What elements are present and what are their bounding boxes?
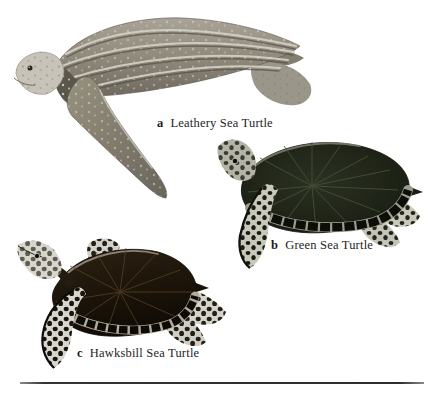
leatherback-head (14, 52, 64, 94)
caption-a: aLeathery Sea Turtle (157, 116, 273, 130)
caption-c: cHawksbill Sea Turtle (77, 346, 199, 360)
divider-rule (20, 382, 424, 384)
hawksbill-head (17, 241, 78, 288)
caption-b-label: Green Sea Turtle (285, 238, 373, 252)
figure-plate: aLeathery Sea Turtle bGreen Sea Turtle c… (0, 0, 433, 393)
leatherback-eye (28, 66, 33, 71)
green-turtle-eye (232, 158, 238, 164)
caption-c-label: Hawksbill Sea Turtle (90, 346, 200, 360)
hawksbill-eye (34, 253, 39, 258)
caption-a-label: Leathery Sea Turtle (170, 116, 272, 130)
caption-b: bGreen Sea Turtle (271, 238, 373, 252)
caption-b-marker: b (271, 238, 278, 252)
caption-c-marker: c (77, 346, 83, 360)
caption-a-marker: a (157, 116, 163, 130)
